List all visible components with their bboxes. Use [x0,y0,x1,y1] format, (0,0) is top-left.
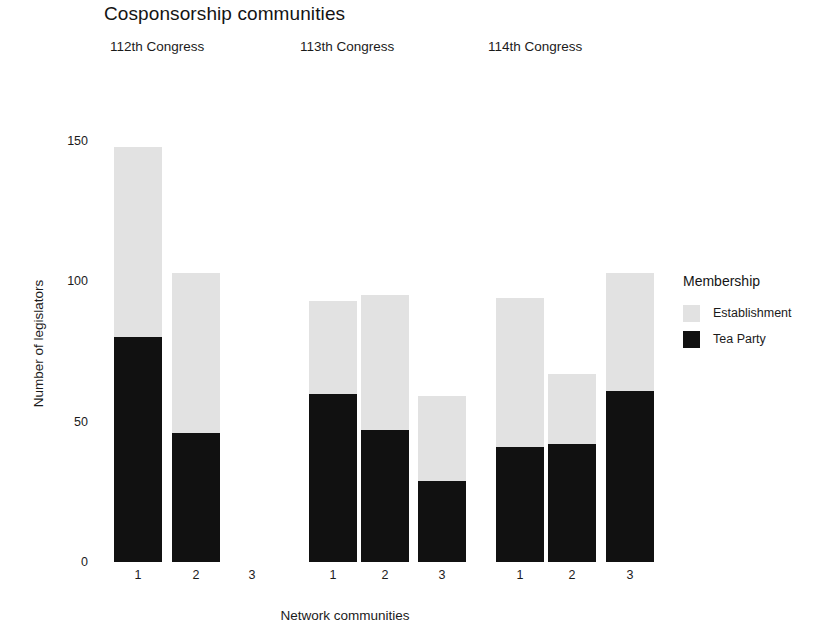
x-tick-label-p2-2: 2 [370,568,400,582]
legend-title: Membership [683,272,833,290]
y-tick-label-150: 150 [42,134,88,148]
bar-segment-establishment-p1-c1 [114,147,162,338]
legend-swatch-tea-party-icon [683,331,700,348]
legend-item-establishment[interactable]: Establishment [683,300,833,326]
bar-segment-establishment-p1-c2 [172,273,220,433]
bar-segment-establishment-p3-c3 [606,273,654,391]
legend-label-establishment: Establishment [713,305,792,321]
bar-segment-establishment-p3-c1 [496,298,544,447]
bar-segment-tea-party-p2-c2 [361,430,409,562]
bar-segment-tea-party-p2-c1 [309,394,357,562]
bar-segment-tea-party-p3-c3 [606,391,654,562]
x-tick-label-p3-3: 3 [615,568,645,582]
x-axis-title: Network communities [0,608,690,623]
panel-strip-label-114th: 114th Congress [488,38,582,56]
bar-segment-tea-party-p1-c2 [172,433,220,562]
panel-strip-label-112th: 112th Congress [110,38,204,56]
x-tick-label-p1-3: 3 [237,568,267,582]
bar-segment-tea-party-p1-c1 [114,337,162,562]
legend: Membership Establishment Tea Party [683,272,833,352]
y-tick-label-100: 100 [42,274,88,288]
bar-segment-establishment-p2-c3 [418,396,466,480]
bar-segment-tea-party-p3-c2 [548,444,596,562]
legend-swatch-establishment-icon [683,305,700,322]
y-tick-label-0: 0 [42,555,88,569]
x-tick-label-p3-1: 1 [505,568,535,582]
bar-segment-establishment-p2-c2 [361,295,409,430]
x-tick-label-p1-1: 1 [123,568,153,582]
legend-item-tea-party[interactable]: Tea Party [683,326,833,352]
x-tick-label-p2-1: 1 [318,568,348,582]
y-tick-label-50: 50 [42,415,88,429]
x-tick-label-p1-2: 2 [181,568,211,582]
cosponsorship-communities-chart: Cosponsorship communities 112th Congress… [0,0,838,637]
bar-segment-tea-party-p2-c3 [418,481,466,562]
bar-segment-establishment-p2-c1 [309,301,357,394]
panel-strip-label-113th: 113th Congress [300,38,394,56]
bar-segment-establishment-p3-c2 [548,374,596,444]
x-tick-label-p2-3: 3 [427,568,457,582]
legend-label-tea-party: Tea Party [713,331,766,347]
chart-title: Cosponsorship communities [104,2,345,26]
x-tick-label-p3-2: 2 [557,568,587,582]
bar-segment-tea-party-p3-c1 [496,447,544,562]
